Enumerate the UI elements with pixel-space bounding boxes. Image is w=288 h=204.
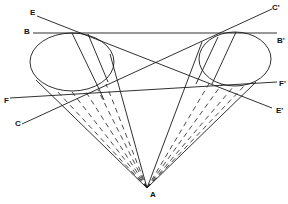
right-ellipse [199, 32, 271, 86]
label-E: E [30, 9, 35, 17]
left-cone [36, 33, 147, 188]
label-A: A [150, 191, 156, 199]
label-F-prime: F' [279, 80, 286, 88]
label-B: B [24, 28, 30, 36]
cone-ellipse-diagram [0, 0, 288, 204]
label-C: C [15, 120, 21, 128]
label-B-prime: B' [277, 37, 285, 45]
line-C-Cprime [22, 9, 272, 124]
left-ellipse [30, 33, 114, 91]
label-E-prime: E' [276, 107, 283, 115]
label-C-prime: C' [272, 4, 280, 12]
label-F: F [4, 97, 9, 105]
line-F-Fprime [10, 82, 277, 98]
right-cone [147, 32, 256, 188]
